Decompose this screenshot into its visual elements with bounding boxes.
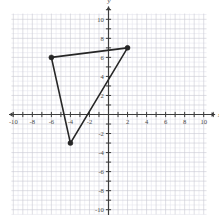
y-tick-label: -2 [98, 130, 104, 137]
x-tick-label: 6 [164, 118, 168, 125]
y-axis-label: y [106, 0, 111, 4]
y-tick-label: -6 [98, 168, 104, 175]
vertex-point [125, 45, 130, 50]
x-tick-label: 2 [126, 118, 129, 125]
x-tick-label: -6 [49, 118, 55, 125]
x-tick-label: 8 [183, 118, 187, 125]
coordinate-plane-svg: -10-8-6-4-2246810108642-2-4-6-8-10 xy [0, 0, 219, 215]
vertex-point [49, 55, 54, 60]
x-tick-label: -10 [9, 118, 18, 125]
x-tick-label: -8 [30, 118, 36, 125]
vertex-point [68, 141, 73, 146]
x-tick-label: 4 [145, 118, 149, 125]
x-axis-label: x [217, 111, 219, 118]
x-tick-label: 10 [200, 118, 207, 125]
x-tick-label: -4 [68, 118, 74, 125]
y-tick-label: -8 [98, 187, 104, 194]
x-tick-label: -2 [87, 118, 93, 125]
y-tick-label: -10 [95, 206, 104, 213]
axes [9, 6, 215, 215]
y-tick-label: 10 [97, 16, 104, 23]
coordinate-plane-figure: -10-8-6-4-2246810108642-2-4-6-8-10 xy [0, 0, 219, 215]
y-tick-label: -4 [98, 149, 104, 156]
